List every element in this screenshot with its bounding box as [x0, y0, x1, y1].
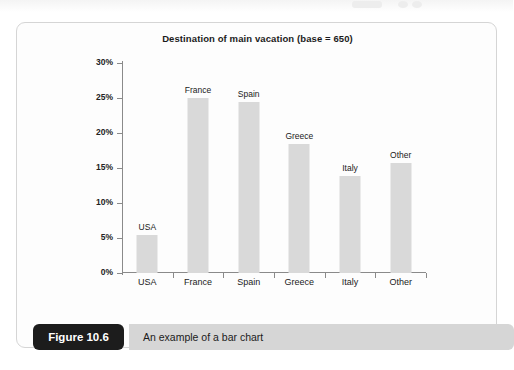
page-top-artifact	[0, 0, 513, 12]
bar	[339, 176, 360, 273]
figure-caption: Figure 10.6 An example of a bar chart	[33, 324, 514, 350]
x-axis-category-label: France	[184, 277, 212, 287]
x-axis-tick	[274, 273, 275, 278]
bar-group: GreeceGreece	[274, 63, 325, 273]
scan-smudge	[398, 1, 408, 8]
x-axis-tick	[426, 273, 427, 278]
bar-value-label: Greece	[285, 131, 313, 141]
y-axis-tick-label: 0%	[101, 267, 113, 277]
bar-value-label: France	[185, 85, 211, 95]
x-axis-tick	[375, 273, 376, 278]
y-axis-tick-label: 30%	[96, 57, 113, 67]
y-axis-tick-label: 5%	[101, 232, 113, 242]
y-axis-tick-label: 20%	[96, 127, 113, 137]
y-axis-tick-label: 15%	[96, 162, 113, 172]
bar	[390, 163, 411, 273]
bar	[289, 144, 310, 274]
y-axis-tick: 0%	[117, 273, 122, 274]
figure-caption-text: An example of a bar chart	[129, 324, 514, 350]
x-axis-category-label: Other	[389, 277, 412, 287]
x-axis-category-label: Italy	[342, 277, 359, 287]
x-axis-category-label: Spain	[237, 277, 260, 287]
bar-group: ItalyItaly	[325, 63, 376, 273]
bar-value-label: USA	[139, 222, 156, 232]
plot-area: 0%5%10%15%20%25%30% USAUSAFranceFranceSp…	[122, 63, 426, 273]
figure-number-badge: Figure 10.6	[33, 324, 124, 350]
scan-smudge	[352, 1, 382, 8]
x-axis-tick	[223, 273, 224, 278]
bar-value-label: Italy	[342, 163, 358, 173]
chart-title: Destination of main vacation (base = 650…	[17, 33, 498, 44]
y-axis-tick-label: 25%	[96, 92, 113, 102]
x-axis-category-label: USA	[138, 277, 157, 287]
bar-value-label: Spain	[238, 89, 260, 99]
bar	[137, 235, 158, 274]
x-axis-category-label: Greece	[285, 277, 315, 287]
bar-group: OtherOther	[375, 63, 426, 273]
figure-card: Destination of main vacation (base = 650…	[16, 22, 497, 348]
bar-chart: Destination of main vacation (base = 650…	[17, 23, 498, 288]
bar-group: USAUSA	[122, 63, 173, 273]
bar	[238, 102, 259, 274]
x-axis-tick	[325, 273, 326, 278]
bar-value-label: Other	[390, 150, 411, 160]
bar-series: USAUSAFranceFranceSpainSpainGreeceGreece…	[122, 63, 426, 273]
x-axis-tick	[173, 273, 174, 278]
bar	[187, 98, 208, 273]
y-axis-tick-label: 10%	[96, 197, 113, 207]
scan-smudge	[412, 1, 422, 8]
bar-group: SpainSpain	[223, 63, 274, 273]
bar-group: FranceFrance	[173, 63, 224, 273]
